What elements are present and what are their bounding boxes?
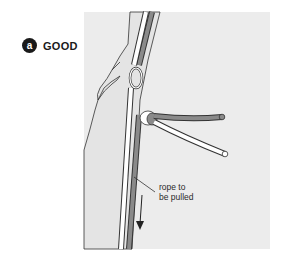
callout-line-2: be pulled <box>159 192 194 202</box>
panel-title: GOOD <box>43 40 78 52</box>
callout-line-1: rope to <box>159 182 194 192</box>
callout-rope-to-be-pulled: rope to be pulled <box>159 182 194 202</box>
panel-badge: a <box>22 38 37 53</box>
panel-label: a GOOD <box>22 38 78 53</box>
